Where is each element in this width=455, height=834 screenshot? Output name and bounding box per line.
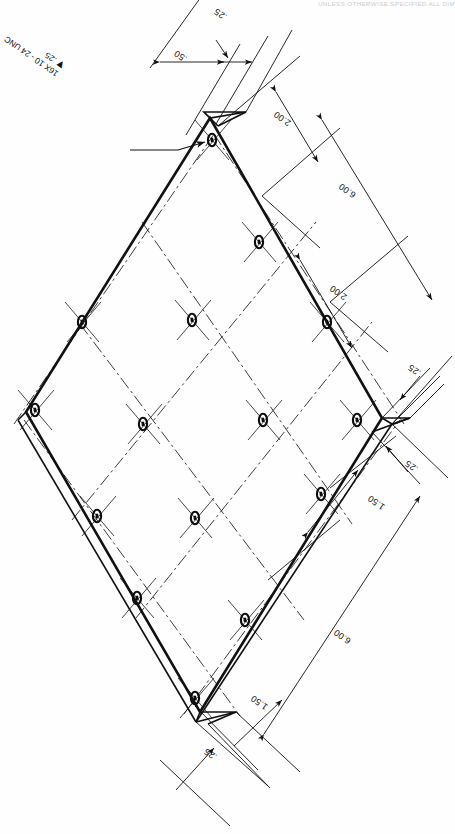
corner-facets [196,112,410,724]
threaded-holes [31,134,361,704]
part-drawing-svg [0,0,455,834]
hole-centerline-ticks [18,120,376,718]
plate-top-face-outline [26,118,382,712]
drawing-sheet: UNLESS OTHERWISE SPECIFIED ALL DIMENSION… [0,0,455,834]
sheet-header-note: UNLESS OTHERWISE SPECIFIED ALL DIMENSION… [318,0,455,9]
dim-bottom-group [160,700,300,826]
centerline-grid [14,134,404,716]
dim-lower-right-group [196,424,448,786]
